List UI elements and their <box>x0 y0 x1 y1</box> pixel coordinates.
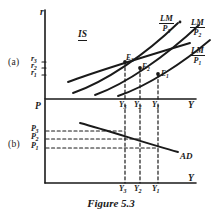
panel-b-y-axis-label: P <box>35 102 41 112</box>
tick-label-p2: P2 <box>31 133 39 141</box>
tick-label-y3-panel-a: Y3 <box>119 101 127 109</box>
ad-curve-label: AD <box>180 152 193 161</box>
panel-b-x-axis-label: Y <box>188 174 194 184</box>
figure-container: (a) r Y r3 r2 r1 Y3 Y2 Y1 IS LM P3 LM P2… <box>0 0 222 216</box>
equilibrium-label-e3: E3 <box>126 54 134 62</box>
tick-label-p1: P1 <box>31 142 39 150</box>
tick-label-y1-panel-a: Y1 <box>152 101 160 109</box>
tick-label-r1: r1 <box>31 69 37 77</box>
panel-b-tag: (b) <box>8 140 20 150</box>
figure-caption: Figure 5.3 <box>0 197 222 209</box>
panel-a-tag: (a) <box>8 58 19 68</box>
lm-curve-label-p1: LM P1 <box>190 46 205 65</box>
tick-label-y2-panel-b: Y2 <box>134 185 142 193</box>
is-curve-label: IS <box>78 24 87 41</box>
tick-label-y1-panel-b: Y1 <box>152 185 160 193</box>
is-label-underline <box>78 40 87 41</box>
equilibrium-dot-e1 <box>156 72 160 76</box>
equilibrium-label-e2: E2 <box>142 63 150 71</box>
panel-a-x-axis-label: Y <box>188 101 194 111</box>
tick-label-y3-panel-b: Y3 <box>119 185 127 193</box>
panel-a-y-axis-label: r <box>40 8 44 18</box>
equilibrium-label-e1: E1 <box>161 70 169 78</box>
ad-curve <box>80 123 178 152</box>
tick-label-y2-panel-a: Y2 <box>134 101 142 109</box>
lm-p2-endpoint-dot <box>179 21 182 24</box>
lm-curve-label-p2: LM P2 <box>190 18 205 37</box>
lm-curve-label-p3: LM P3 <box>159 14 174 33</box>
